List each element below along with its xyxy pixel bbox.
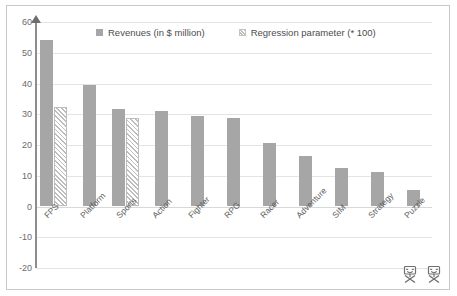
y-axis-tick-label: -20 [4,263,32,273]
bar-fps-revenue [40,40,53,207]
legend-entry-2[interactable]: Regression parameter (* 100) [239,27,376,38]
broken-image-icon [402,265,419,284]
x-axis-tick-labels: FPSPlatformSportsActionFighterRPGRacerAd… [36,213,432,273]
bar-fps-regression [54,107,67,206]
bar-sports-revenue [112,109,125,206]
bar-sports-regression [126,118,139,207]
chart-figure: 6050403020100-10-20 FPSPlatformSportsAct… [0,0,457,296]
y-axis-tick-label: -10 [4,232,32,242]
legend-swatch-icon [239,29,246,36]
bar-fighter-revenue [191,116,204,206]
legend-swatch-icon [96,29,103,36]
y-axis-tick-label: 30 [4,109,32,119]
bar-action-revenue [155,111,168,206]
bar-sim-revenue [335,168,348,207]
legend-label: Regression parameter (* 100) [251,27,376,38]
bar-platform-revenue [83,85,96,206]
legend-label: Revenues (in $ million) [108,27,205,38]
y-axis-tick-label: 50 [4,48,32,58]
y-axis-tick-label: 40 [4,79,32,89]
legend-entry-1[interactable]: Revenues (in $ million) [96,27,205,38]
footer-icons [402,265,443,284]
y-axis-tick-labels: 6050403020100-10-20 [0,22,32,268]
y-axis-tick-label: 60 [4,17,32,27]
y-axis-tick-label: 0 [4,202,32,212]
bar-rpg-revenue [227,118,240,207]
y-axis-tick-label: 20 [4,140,32,150]
y-axis-arrow-icon [31,15,41,23]
y-axis-tick-label: 10 [4,171,32,181]
broken-image-icon [426,265,443,284]
chart-legend: Revenues (in $ million)Regression parame… [96,27,376,38]
